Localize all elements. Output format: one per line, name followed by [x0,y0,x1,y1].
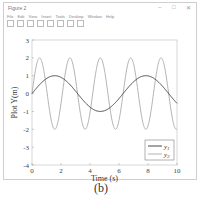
y-tick-label: -3 [23,144,29,152]
y-tick-label: -4 [23,162,29,170]
x-tick-label: 8 [146,167,150,175]
y-tick-label: 0 [26,90,30,98]
line-chart: 0246810-4-3-2-10123Time (s)Plot Y(m)y1y2 [0,0,202,199]
y-tick-label: -2 [23,126,29,134]
y-tick-label: 3 [26,37,30,45]
y-tick-label: 1 [26,72,30,80]
legend [145,140,174,160]
y-tick-label: 2 [26,54,30,62]
figure-caption: (b) [0,181,202,196]
x-tick-label: 2 [59,167,63,175]
y-axis-label: Plot Y(m) [10,86,19,118]
x-tick-label: 10 [174,167,182,175]
x-tick-label: 0 [30,167,34,175]
y-tick-label: -1 [23,108,29,116]
